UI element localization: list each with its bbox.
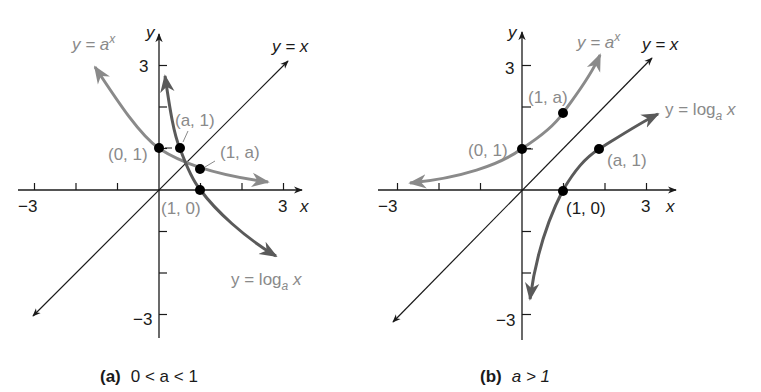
log-label: y = loga x <box>231 270 302 293</box>
log-curve <box>165 76 276 256</box>
label-1-0: (1, 0) <box>566 199 606 218</box>
label-a-1: (a, 1) <box>607 151 647 170</box>
tick-y-neg: −3 <box>496 311 515 330</box>
label-0-1: (0, 1) <box>468 141 508 160</box>
tick-y-pos: 3 <box>139 57 148 76</box>
exp-label: y = ax <box>71 32 116 54</box>
point-0-1 <box>154 143 164 153</box>
tick-x-pos: 3 <box>278 197 287 216</box>
identity-label: y = x <box>271 37 309 56</box>
tick-x-pos: 3 <box>641 197 650 216</box>
label-1-a: (1, a) <box>220 143 260 162</box>
point-1-a <box>195 164 205 174</box>
point-0-1 <box>517 144 527 154</box>
point-a-1 <box>594 144 604 154</box>
point-1-a <box>558 108 568 118</box>
caption-b: (b)a > 1 <box>480 367 550 386</box>
label-1-0: (1, 0) <box>161 199 201 218</box>
tick-y-pos: 3 <box>505 59 514 78</box>
x-axis <box>378 183 676 190</box>
x-axis-label: x <box>299 197 309 216</box>
label-0-1: (0, 1) <box>108 145 148 164</box>
figure: y x 3 −3 −3 3 y = ax y = x y = loga x (0… <box>0 0 761 392</box>
point-1-0 <box>195 185 205 195</box>
label-a-1: (a, 1) <box>175 111 215 130</box>
point-a-1 <box>175 143 185 153</box>
log-label: y = loga x <box>665 100 736 123</box>
tick-y-neg: −3 <box>133 310 152 329</box>
point-1-0 <box>558 186 568 196</box>
panel-a: y x 3 −3 −3 3 y = ax y = x y = loga x (0… <box>18 23 309 386</box>
identity-label: y = x <box>641 35 679 54</box>
x-axis-label: x <box>665 197 675 216</box>
caption-a: (a)0 < a < 1 <box>100 367 198 386</box>
panel-b: y x 3 −3 −3 3 y = ax y = x y = loga x (0… <box>378 23 736 386</box>
label-1-a: (1, a) <box>528 88 568 107</box>
tick-x-neg: −3 <box>18 197 37 216</box>
exp-label: y = ax <box>576 30 621 52</box>
y-axis-label: y <box>507 23 518 42</box>
y-axis-label: y <box>145 23 156 42</box>
tick-x-neg: −3 <box>378 197 397 216</box>
